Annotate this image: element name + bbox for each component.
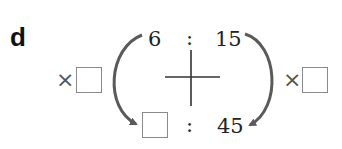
ratio-top-right-value: 15 [215, 29, 242, 50]
right-multiplier-answer-box[interactable] [302, 67, 328, 93]
ratio-bottom-separator: : [186, 115, 193, 136]
left-multiply-icon: × [56, 69, 74, 91]
right-curved-arrow-icon [245, 34, 272, 125]
left-multiplier-answer-box[interactable] [76, 67, 102, 93]
left-curved-arrow-icon [114, 35, 142, 124]
ratio-bottom-left-answer-box[interactable] [142, 112, 168, 138]
ratio-top-separator: : [186, 28, 193, 49]
ratio-bottom-right-value: 45 [217, 116, 244, 137]
right-multiply-icon: × [283, 69, 301, 91]
ratio-top-left-value: 6 [148, 29, 161, 50]
